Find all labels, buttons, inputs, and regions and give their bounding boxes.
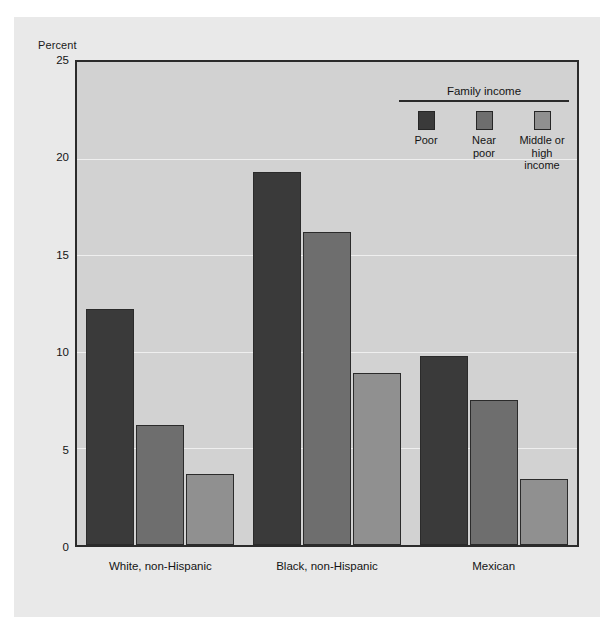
y-tick-5: 5 bbox=[23, 444, 69, 456]
legend-item-label: Near poor bbox=[457, 134, 511, 159]
legend-items: PoorNear poorMiddle or high income bbox=[399, 111, 569, 172]
bar bbox=[353, 373, 401, 545]
x-axis-label: White, non-Hispanic bbox=[109, 560, 212, 572]
legend-item: Middle or high income bbox=[515, 111, 569, 172]
x-axis-label: Mexican bbox=[472, 560, 515, 572]
bar bbox=[253, 172, 301, 545]
legend-swatch bbox=[476, 111, 493, 130]
bar bbox=[136, 425, 184, 545]
legend-item-label: Middle or high income bbox=[515, 134, 569, 172]
y-tick-0: 0 bbox=[23, 541, 69, 553]
legend-item: Poor bbox=[399, 111, 453, 147]
y-tick-15: 15 bbox=[23, 249, 69, 261]
bar bbox=[470, 400, 518, 545]
plot-area: Family income PoorNear poorMiddle or hig… bbox=[75, 60, 579, 547]
y-tick-20: 20 bbox=[23, 151, 69, 163]
bar bbox=[420, 356, 468, 545]
legend-title: Family income bbox=[399, 85, 569, 97]
y-axis-title: Percent bbox=[38, 39, 77, 51]
bar bbox=[186, 474, 234, 545]
legend-swatch bbox=[534, 111, 551, 130]
legend-divider bbox=[399, 100, 569, 102]
figure-panel: Percent 25 20 15 10 5 0 Family income Po… bbox=[14, 17, 600, 617]
bar bbox=[303, 232, 351, 545]
bar bbox=[520, 479, 568, 545]
y-tick-25: 25 bbox=[23, 54, 69, 66]
legend-item: Near poor bbox=[457, 111, 511, 159]
legend: Family income PoorNear poorMiddle or hig… bbox=[399, 85, 569, 172]
bar bbox=[86, 309, 134, 545]
y-tick-10: 10 bbox=[23, 346, 69, 358]
y-axis-tick-labels: 25 20 15 10 5 0 bbox=[19, 60, 69, 547]
x-axis-label: Black, non-Hispanic bbox=[276, 560, 378, 572]
legend-swatch bbox=[418, 111, 435, 130]
legend-item-label: Poor bbox=[399, 134, 453, 147]
